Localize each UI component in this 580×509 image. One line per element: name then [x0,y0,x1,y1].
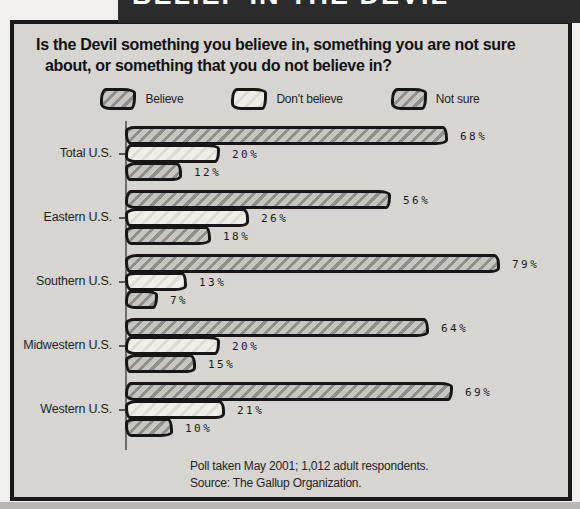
bar-chart: Total U.S.68%20%12%Eastern U.S.56%26%18%… [0,0,580,509]
value-label-not-sure-eastern-u-s: 18% [223,230,250,243]
bar-don-t-believe-eastern-u-s [125,208,249,227]
bar-believe-western-u-s [125,382,453,401]
bar-not-sure-southern-u-s [125,290,158,309]
value-label-don-t-believe-western-u-s: 21% [237,404,264,417]
bar-believe-eastern-u-s [125,190,391,209]
category-label-total-u-s: Total U.S. [0,144,112,163]
value-label-don-t-believe-eastern-u-s: 26% [261,212,288,225]
bar-not-sure-total-u-s [125,162,182,181]
value-label-not-sure-southern-u-s: 7% [170,294,188,307]
bar-believe-southern-u-s [125,254,500,273]
bar-don-t-believe-western-u-s [125,400,225,419]
value-label-don-t-believe-midwestern-u-s: 20% [232,340,259,353]
value-label-don-t-believe-total-u-s: 20% [232,148,259,161]
value-label-not-sure-midwestern-u-s: 15% [208,358,235,371]
bar-don-t-believe-southern-u-s [125,272,187,291]
bar-not-sure-eastern-u-s [125,226,211,245]
bar-believe-midwestern-u-s [125,318,429,337]
title-banner: BELIEF IN THE DEVIL [118,0,580,23]
poll-chart-page: BELIEF IN THE DEVIL Is the Devil somethi… [0,0,580,509]
value-label-believe-southern-u-s: 79% [512,258,539,271]
value-label-believe-western-u-s: 69% [465,386,492,399]
category-label-western-u-s: Western U.S. [0,400,112,419]
bar-believe-total-u-s [125,126,448,145]
value-label-not-sure-total-u-s: 12% [194,166,221,179]
category-label-eastern-u-s: Eastern U.S. [0,208,112,227]
category-label-southern-u-s: Southern U.S. [0,272,112,291]
value-label-not-sure-western-u-s: 10% [185,422,212,435]
category-label-midwestern-u-s: Midwestern U.S. [0,336,112,355]
value-label-believe-eastern-u-s: 56% [403,194,430,207]
chart-title: BELIEF IN THE DEVIL [132,0,449,11]
bar-don-t-believe-midwestern-u-s [125,336,220,355]
bar-not-sure-midwestern-u-s [125,354,196,373]
value-label-believe-midwestern-u-s: 64% [441,322,468,335]
bar-not-sure-western-u-s [125,418,173,437]
bar-don-t-believe-total-u-s [125,144,220,163]
value-label-don-t-believe-southern-u-s: 13% [199,276,226,289]
value-label-believe-total-u-s: 68% [460,130,487,143]
